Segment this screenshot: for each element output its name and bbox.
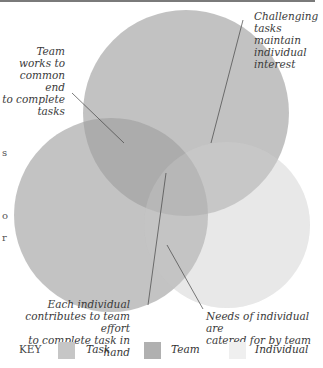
circle-individual-overlay bbox=[144, 142, 310, 308]
annotation-team-individual: Needs of individual are catered for by t… bbox=[206, 310, 323, 346]
annotation-line: Needs of individual are bbox=[206, 310, 323, 334]
key-item-task: Task bbox=[86, 343, 110, 355]
key-swatch-task bbox=[58, 342, 75, 359]
annotation-line: Each individual bbox=[10, 298, 130, 310]
edge-fragment: r bbox=[2, 232, 7, 243]
annotation-line: common end bbox=[2, 69, 65, 93]
annotation-line: contributes to team effort bbox=[10, 310, 130, 334]
key-label: KEY bbox=[19, 343, 41, 355]
key-swatch-individual bbox=[229, 342, 246, 359]
key-swatch-team bbox=[144, 342, 161, 359]
edge-fragment: o bbox=[2, 210, 8, 221]
annotation-line: tasks bbox=[2, 105, 65, 117]
annotation-line: Challenging bbox=[254, 10, 323, 22]
annotation-line: individual bbox=[254, 46, 323, 58]
annotation-team-task: Team works to common end to complete tas… bbox=[2, 45, 65, 117]
annotation-line: tasks maintain bbox=[254, 22, 323, 46]
edge-fragment: s bbox=[2, 147, 7, 158]
key-item-individual: Individual bbox=[255, 343, 308, 355]
annotation-line: Team works to bbox=[2, 45, 65, 69]
key-item-team: Team bbox=[171, 343, 200, 355]
annotation-line: interest bbox=[254, 58, 323, 70]
annotation-task-individual: Challenging tasks maintain individual in… bbox=[254, 10, 323, 70]
annotation-line: to complete bbox=[2, 93, 65, 105]
